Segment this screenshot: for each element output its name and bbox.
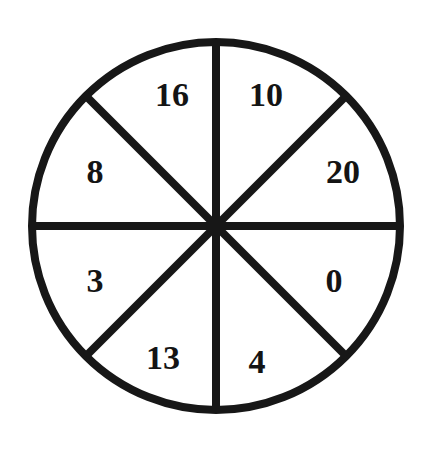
sector-label-bottom-right: 4: [249, 345, 266, 379]
sector-label-top-right: 10: [249, 78, 283, 112]
spinner-wheel-graphic: [0, 0, 431, 451]
sector-label-left-lower: 3: [87, 264, 104, 298]
spinner-wheel-figure: 16 10 20 0 4 13 3 8: [0, 0, 431, 451]
sector-label-right-upper: 20: [326, 155, 360, 189]
sector-label-left-upper: 8: [87, 155, 104, 189]
sector-label-top-left: 16: [155, 78, 189, 112]
sector-label-right-lower: 0: [326, 264, 343, 298]
sector-label-bottom-left: 13: [146, 341, 180, 375]
